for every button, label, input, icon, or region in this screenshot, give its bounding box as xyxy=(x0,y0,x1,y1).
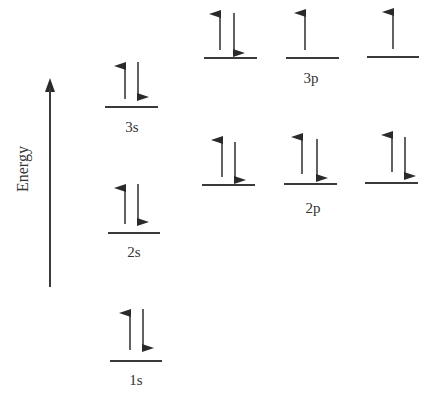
orbital-label-2s: 2s xyxy=(104,244,164,261)
orbital-level-2p-1 xyxy=(202,184,255,186)
orbital-level-3p-3 xyxy=(367,56,419,58)
orbital-level-3p-1 xyxy=(204,57,257,59)
electron-arrows xyxy=(0,0,432,408)
orbital-level-1s xyxy=(110,360,162,362)
orbital-label-3s: 3s xyxy=(102,119,162,136)
orbital-level-2p-3 xyxy=(365,182,418,184)
electron-pair-3p-1 xyxy=(220,13,234,53)
orbital-level-3p-2 xyxy=(286,57,339,59)
electron-pair-3s xyxy=(125,62,138,99)
electron-pair-2s xyxy=(125,184,138,224)
orbital-label-1s: 1s xyxy=(106,372,166,389)
electron-pair-2p-2 xyxy=(302,137,317,178)
orbital-label-3p: 3p xyxy=(281,70,341,87)
electron-pair-1s xyxy=(130,309,143,350)
orbital-label-2p: 2p xyxy=(283,200,343,217)
orbital-level-2p-2 xyxy=(284,183,337,185)
electron-pair-2p-3 xyxy=(392,135,405,176)
electron-pair-2p-1 xyxy=(222,140,235,180)
orbital-level-3s xyxy=(105,106,158,108)
orbital-level-2s xyxy=(108,232,160,234)
